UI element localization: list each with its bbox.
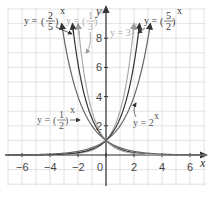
y-tick-label: 4 (96, 91, 102, 103)
svg-text:): ) (65, 115, 68, 127)
svg-text:1: 1 (88, 10, 93, 21)
curve-arrow-icon (138, 24, 139, 33)
svg-text:2: 2 (59, 120, 64, 131)
svg-text:y = 3: y = 3 (110, 27, 131, 38)
svg-text:(: ( (160, 16, 164, 28)
svg-text:x: x (70, 104, 75, 115)
curve (5, 24, 134, 155)
label-one-third: y = ( 1 3 ) x (66, 5, 104, 53)
svg-text:): ) (94, 16, 97, 28)
exponential-graphs-chart: x y −6−4−20246 2468 y = ( 2 5 ) x y = ( … (0, 0, 216, 199)
svg-text:(: ( (41, 16, 45, 28)
x-axis-label: x (199, 156, 206, 170)
x-tick-label: −2 (72, 161, 85, 173)
curve (5, 29, 139, 155)
svg-text:y =: y = (37, 114, 51, 125)
svg-text:x: x (154, 110, 159, 121)
label-one-half: y = ( 1 2 ) x (37, 104, 80, 131)
x-tick-label: −4 (44, 161, 57, 173)
y-tick-label: 8 (96, 32, 102, 44)
svg-text:(: ( (82, 16, 86, 28)
curve (73, 29, 207, 155)
x-tick-label: 4 (159, 161, 165, 173)
svg-text:y = 2: y = 2 (133, 117, 154, 128)
svg-text:5: 5 (166, 10, 171, 21)
svg-text:x: x (99, 5, 104, 16)
x-tick-label: 2 (131, 161, 137, 173)
svg-text:2: 2 (48, 10, 53, 21)
y-tick-label: 6 (96, 61, 102, 73)
svg-text:): ) (172, 16, 175, 28)
svg-text:1: 1 (59, 109, 64, 120)
svg-text:x: x (177, 5, 182, 16)
svg-text:x: x (60, 5, 65, 16)
svg-text:x: x (133, 20, 138, 31)
x-tick-label: 6 (187, 161, 193, 173)
svg-text:(: ( (53, 115, 57, 127)
label-two-x: y = 2 x (133, 103, 159, 128)
svg-text:y =: y = (24, 15, 38, 26)
x-tick-label: 0 (97, 161, 103, 173)
svg-text:2: 2 (166, 21, 171, 32)
svg-text:y =: y = (144, 15, 158, 26)
svg-text:5: 5 (48, 21, 53, 32)
svg-text:): ) (55, 16, 58, 28)
svg-text:y =: y = (66, 15, 80, 26)
svg-text:3: 3 (88, 21, 93, 32)
x-tick-label: −6 (16, 161, 29, 173)
